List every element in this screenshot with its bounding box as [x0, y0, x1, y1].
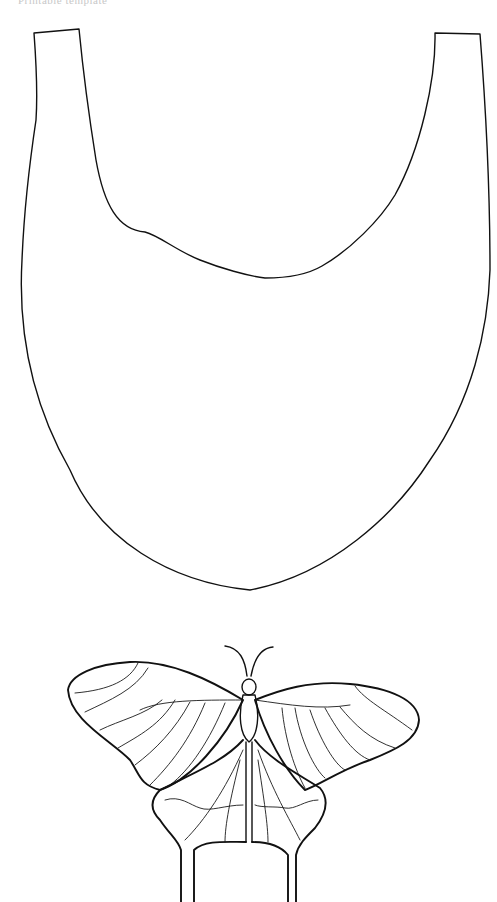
bag-outline-icon [21, 29, 490, 590]
template-sheet [0, 0, 497, 902]
butterfly-outline-icon [68, 646, 419, 902]
template-canvas [0, 0, 497, 902]
